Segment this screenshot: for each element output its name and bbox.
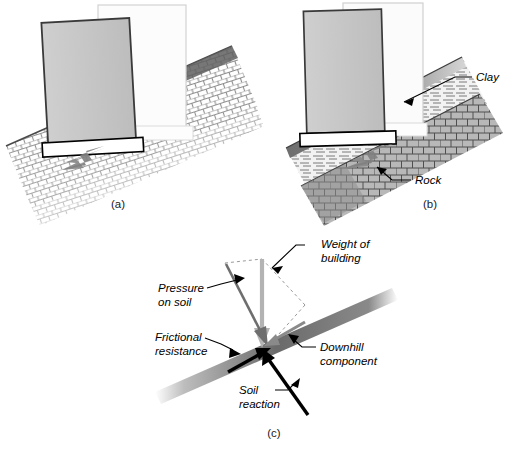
friction-label-line1: Frictional	[155, 331, 202, 343]
building-a	[41, 18, 136, 145]
panel-b: Clay Rock (b)	[286, 3, 503, 226]
soil-reaction-arrowhead	[291, 378, 300, 388]
pressure-leader-line	[207, 280, 237, 288]
friction-leader-line	[205, 338, 233, 350]
figure-root: (a)	[0, 0, 525, 452]
tilted-building-group-b	[296, 9, 396, 147]
caption-c: (c)	[267, 427, 281, 439]
parallelogram-edge-top	[225, 259, 262, 263]
weight-leader-line	[272, 245, 305, 268]
friction-label-line2: resistance	[155, 345, 207, 357]
parallelogram-edge-right	[262, 259, 305, 305]
building-b	[303, 9, 384, 133]
weight-arrowhead	[272, 266, 283, 274]
panel-a: (a)	[6, 5, 264, 226]
tilted-building-group-a	[35, 18, 143, 157]
soil-reaction-label-line1: Soil	[239, 384, 259, 396]
weight-annotation: Weight of building	[272, 238, 371, 274]
soil-reaction-annotation: Soil reaction	[239, 378, 300, 410]
footing-b	[300, 131, 396, 147]
caption-a: (a)	[111, 198, 125, 210]
pressure-label-line2: on soil	[158, 296, 192, 308]
caption-b: (b)	[423, 198, 437, 210]
figure-canvas: (a)	[0, 0, 525, 452]
soil-reaction-label-line2: reaction	[239, 398, 280, 410]
friction-annotation: Frictional resistance	[155, 331, 241, 358]
downhill-label-line1: Downhill	[320, 341, 364, 353]
rock-label: Rock	[415, 174, 442, 186]
pressure-vector-shaft	[226, 264, 263, 336]
downhill-label-line2: component	[320, 355, 378, 367]
pressure-annotation: Pressure on soil	[158, 274, 245, 308]
panel-c: Weight of building Pressure on soil Fric…	[155, 238, 398, 439]
clay-label: Clay	[476, 71, 500, 83]
pressure-label-line1: Pressure	[158, 282, 204, 294]
weight-label-line2: building	[321, 252, 361, 264]
weight-label-line1: Weight of	[321, 238, 371, 250]
